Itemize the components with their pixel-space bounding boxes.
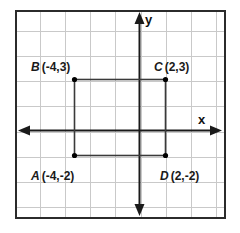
grid-line-horizontal [17,157,224,158]
grid-line-horizontal [17,56,224,57]
coordinate-plane-figure: B(-4,3) C(2,3) A(-4,-2) D(2,-2) y x [0,0,240,233]
grid-lines [17,12,224,217]
grid-line-vertical [216,12,217,217]
grid-line-vertical [141,12,142,217]
grid-line-vertical [40,12,41,217]
grid-line-horizontal [17,132,224,133]
grid-line-horizontal [17,31,224,32]
grid-line-horizontal [17,207,224,208]
grid-line-horizontal [17,81,224,82]
grid-line-vertical [65,12,66,217]
grid-line-horizontal [17,182,224,183]
plot-frame-border [15,10,226,219]
grid-line-vertical [191,12,192,217]
grid-line-vertical [115,12,116,217]
grid-line-vertical [166,12,167,217]
grid-line-vertical [90,12,91,217]
grid-line-horizontal [17,106,224,107]
